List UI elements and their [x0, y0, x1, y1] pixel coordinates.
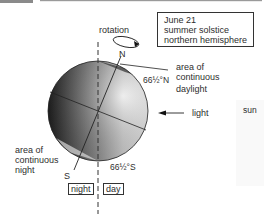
daylight-line: daylight: [176, 84, 220, 94]
night-box: night: [68, 183, 94, 195]
night-line: continuous: [15, 155, 59, 165]
south-pole-label: S: [64, 171, 70, 181]
night-line: area of: [15, 145, 59, 155]
night-area-label: area of continuous night: [15, 145, 59, 175]
info-box-line: June 21: [164, 15, 253, 25]
light-label: light: [192, 108, 209, 118]
south-latitude-label: 66½°S: [110, 162, 136, 172]
header-rule: [40, 0, 262, 1]
sun-label: sun: [243, 105, 257, 115]
north-pole-label: N: [119, 49, 126, 59]
day-box: day: [103, 183, 124, 195]
daylight-line: continuous: [176, 72, 220, 82]
info-box-line: northern hemisphere: [164, 35, 253, 45]
night-line: night: [15, 165, 59, 175]
info-box: June 21 summer solstice northern hemisph…: [157, 12, 254, 47]
daylight-area-label: area of continuous daylight: [176, 62, 220, 94]
info-box-line: summer solstice: [164, 25, 253, 35]
light-arrow-icon: [158, 111, 184, 116]
daylight-line: area of: [176, 62, 220, 72]
header-bar: [0, 0, 33, 3]
arctic-latitude-line: [120, 64, 168, 70]
north-latitude-label: 66½°N: [143, 75, 169, 85]
rotation-label: rotation: [99, 25, 129, 35]
rotation-arrow-icon: [112, 34, 140, 49]
